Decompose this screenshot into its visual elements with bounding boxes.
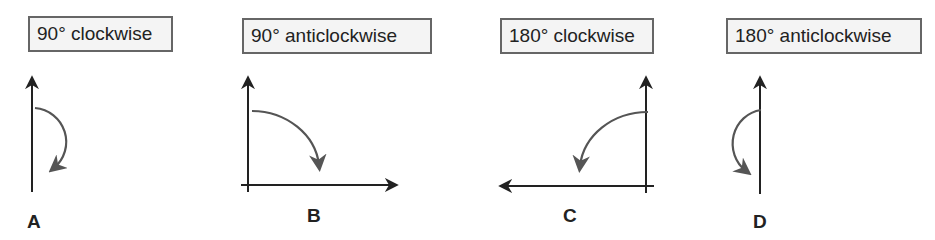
diagram-d [733,78,761,194]
anticlockwise-arc-arrow [733,110,761,171]
diagram-c [501,78,654,193]
rotation-diagrams [0,0,935,240]
diagram-letter-d: D [753,211,767,233]
diagram-a [32,78,66,192]
clockwise-arc-arrow [35,108,66,168]
diagram-letter-b: B [307,205,321,227]
diagram-letter-a: A [27,211,41,233]
clockwise-arc-arrow [252,111,319,165]
diagram-letter-c: C [563,205,577,227]
anticlockwise-arc-arrow [580,112,648,166]
diagram-b [241,78,396,192]
